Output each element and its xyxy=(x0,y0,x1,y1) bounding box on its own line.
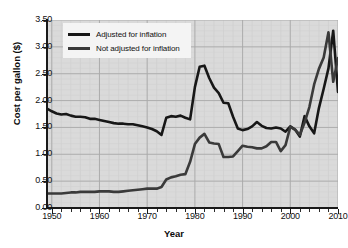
y-axis-title: Cost per gallon ($) xyxy=(11,24,22,144)
x-tick-mark-minor xyxy=(262,209,263,212)
x-tick-mark-minor xyxy=(252,209,253,212)
x-tick-mark-minor xyxy=(214,209,215,212)
x-tick-mark-major xyxy=(290,209,291,214)
chart-figure: 0.000.501.001.502.002.503.003.50 1950196… xyxy=(0,0,348,248)
x-tick-mark-minor xyxy=(138,209,139,212)
x-tick-mark-minor xyxy=(157,209,158,212)
y-tick-mark xyxy=(42,208,47,209)
x-tick-mark-major xyxy=(243,209,244,214)
x-tick-mark-minor xyxy=(271,209,272,212)
legend-item-nominal: Not adjusted for inflation xyxy=(68,41,186,55)
x-tick-mark-minor xyxy=(90,209,91,212)
legend-swatch-adjusted-icon xyxy=(68,33,90,36)
legend-label-nominal: Not adjusted for inflation xyxy=(96,44,180,53)
x-tick-mark-minor xyxy=(204,209,205,212)
x-tick-mark-minor xyxy=(119,209,120,212)
x-tick-mark-minor xyxy=(128,209,129,212)
x-tick-mark-minor xyxy=(109,209,110,212)
x-tick-mark-minor xyxy=(80,209,81,212)
x-tick-mark-minor xyxy=(281,209,282,212)
x-tick-mark-minor xyxy=(233,209,234,212)
y-tick-mark xyxy=(42,181,47,182)
x-tick-mark-minor xyxy=(185,209,186,212)
y-tick-mark xyxy=(42,101,47,102)
y-tick-label: 1.50 xyxy=(22,121,52,131)
y-tick-mark xyxy=(42,20,47,21)
y-tick-label: 0.50 xyxy=(22,175,52,185)
y-tick-mark xyxy=(42,127,47,128)
y-tick-mark xyxy=(42,154,47,155)
legend-item-adjusted: Adjusted for inflation xyxy=(68,27,186,41)
x-tick-mark-major xyxy=(52,209,53,214)
x-tick-mark-minor xyxy=(61,209,62,212)
y-tick-label: 2.50 xyxy=(22,68,52,78)
x-tick-mark-minor xyxy=(309,209,310,212)
x-tick-mark-minor xyxy=(71,209,72,212)
x-tick-mark-minor xyxy=(176,209,177,212)
y-tick-label: 3.00 xyxy=(22,41,52,51)
y-tick-mark xyxy=(42,74,47,75)
x-tick-label: 2010 xyxy=(321,211,348,221)
y-tick-mark xyxy=(42,47,47,48)
x-tick-mark-minor xyxy=(300,209,301,212)
legend-label-adjusted: Adjusted for inflation xyxy=(96,30,166,39)
x-tick-mark-minor xyxy=(319,209,320,212)
x-tick-mark-minor xyxy=(224,209,225,212)
y-tick-label: 3.50 xyxy=(22,14,52,24)
x-tick-mark-major xyxy=(147,209,148,214)
x-tick-mark-major xyxy=(99,209,100,214)
x-tick-mark-major xyxy=(338,209,339,214)
y-tick-label: 2.00 xyxy=(22,95,52,105)
x-tick-mark-minor xyxy=(166,209,167,212)
x-axis-title: Year xyxy=(0,228,348,239)
x-tick-mark-minor xyxy=(328,209,329,212)
x-tick-mark-major xyxy=(195,209,196,214)
y-tick-label: 1.00 xyxy=(22,148,52,158)
chart-legend: Adjusted for inflation Not adjusted for … xyxy=(63,23,191,58)
legend-swatch-nominal-icon xyxy=(68,47,90,50)
